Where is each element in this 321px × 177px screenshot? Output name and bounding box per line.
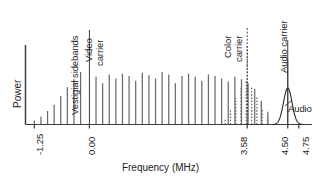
chart-canvas <box>0 0 321 177</box>
x-axis-title: Frequency (MHz) <box>0 163 321 173</box>
annotation-video-carrier-line1: Video <box>84 38 94 62</box>
annotation-video-carrier-line2: carrier <box>95 40 105 66</box>
y-axis-title: Power <box>13 80 23 108</box>
annotation-audio-carrier: Audio carrier <box>279 20 289 73</box>
x-tick-label-3-58: 3.58 <box>239 137 249 155</box>
x-tick-label-4-50: 4.50 <box>280 137 290 155</box>
annotation-vestigial-sidebands: Vestigial sidebands <box>70 36 80 115</box>
x-tick-label-neg1-25: -1.25 <box>35 134 45 155</box>
ntsc-spectrum-chart: Power -1.25 0.00 3.58 4.50 4.75 Frequenc… <box>0 0 321 177</box>
annotation-color-carrier-line1: Color <box>223 36 233 58</box>
x-tick-label-0-00: 0.00 <box>87 137 97 155</box>
annotation-audio: Audio <box>288 104 312 114</box>
annotation-color-carrier-line2: carrier <box>234 36 244 62</box>
x-tick-label-4-75: 4.75 <box>301 137 311 155</box>
